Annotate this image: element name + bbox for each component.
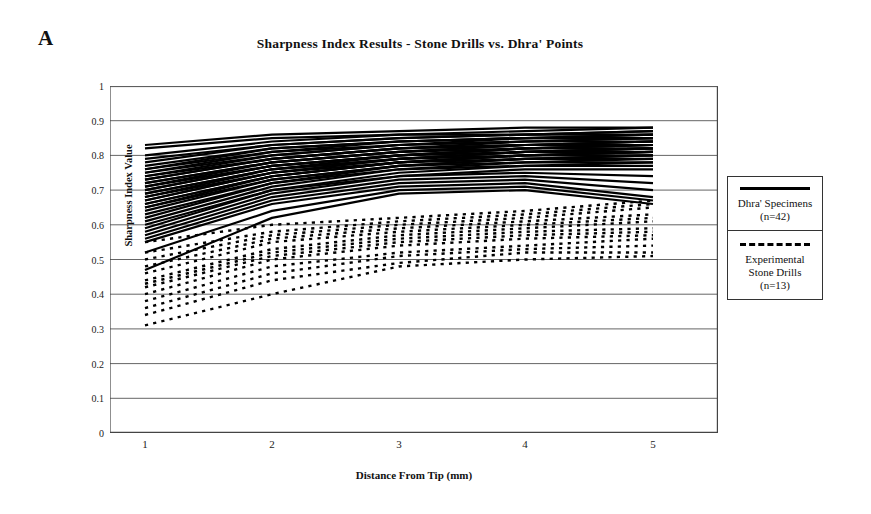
x-tick-label: 3 xyxy=(379,438,419,450)
chart-title: Sharpness Index Results - Stone Drills v… xyxy=(120,36,720,52)
y-tick-label: 0.3 xyxy=(58,323,104,334)
legend-label-line2: Stone Drills xyxy=(732,266,818,279)
legend-entry-dhra-specimens: Dhra' Specimens (n=42) xyxy=(728,177,822,230)
x-tick-label: 5 xyxy=(633,438,673,450)
x-axis-title: Distance From Tip (mm) xyxy=(110,469,718,481)
solid-line-swatch xyxy=(740,187,810,190)
legend-label-line3: (n=13) xyxy=(732,279,818,292)
legend-label-line1: Experimental xyxy=(732,253,818,266)
plot-area xyxy=(110,86,718,433)
y-tick-label: 0.6 xyxy=(58,219,104,230)
y-tick-label: 0.4 xyxy=(58,289,104,300)
legend-entry-experimental-stone-drills: Experimental Stone Drills (n=13) xyxy=(728,230,822,299)
figure-panel: A Sharpness Index Results - Stone Drills… xyxy=(0,0,871,514)
panel-label: A xyxy=(38,28,53,49)
y-tick-label: 0.7 xyxy=(58,185,104,196)
legend-label-line1: Dhra' Specimens xyxy=(732,197,818,210)
y-tick-label: 0.2 xyxy=(58,358,104,369)
dashed-line-swatch xyxy=(740,243,810,246)
x-tick-label: 4 xyxy=(505,438,545,450)
y-tick-label: 0 xyxy=(58,428,104,439)
legend: Dhra' Specimens (n=42) Experimental Ston… xyxy=(727,176,823,300)
x-tick-label: 2 xyxy=(252,438,292,450)
y-tick-label: 0.8 xyxy=(58,150,104,161)
y-axis-title: Sharpness Index Value xyxy=(123,116,134,276)
y-tick-label: 0.1 xyxy=(58,393,104,404)
x-tick-label: 1 xyxy=(125,438,165,450)
y-tick-label: 1 xyxy=(58,81,104,92)
legend-label-line2: (n=42) xyxy=(732,210,818,223)
y-tick-label: 0.5 xyxy=(58,254,104,265)
y-tick-label: 0.9 xyxy=(58,115,104,126)
plot-wrapper: Sharpness Index Value Distance From Tip … xyxy=(110,86,718,433)
